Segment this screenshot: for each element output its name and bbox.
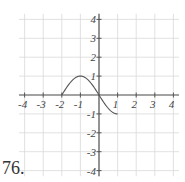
y-tick-label: -3: [87, 146, 97, 158]
x-tick-labels: -4-3-2-11234: [18, 98, 175, 110]
y-tick-label: 4: [91, 13, 97, 25]
graph: -4-3-2-11234 4321-1-2-3-4: [0, 0, 185, 182]
x-tick-label: -2: [55, 98, 65, 110]
y-tick-label: 1: [91, 70, 97, 82]
y-tick-label: -2: [87, 127, 97, 139]
problem-number: 76.: [2, 158, 25, 179]
x-tick-label: -4: [18, 98, 28, 110]
x-tick-label: 2: [131, 98, 137, 110]
x-tick-label: -1: [74, 98, 83, 110]
x-tick-label: 4: [169, 98, 175, 110]
x-tick-label: 1: [113, 98, 119, 110]
y-tick-label: -1: [87, 108, 96, 120]
y-tick-label: 3: [90, 32, 97, 44]
x-tick-label: -3: [37, 98, 47, 110]
y-tick-label: -4: [87, 165, 97, 177]
x-tick-label: 3: [149, 98, 156, 110]
y-tick-label: 2: [91, 51, 97, 63]
